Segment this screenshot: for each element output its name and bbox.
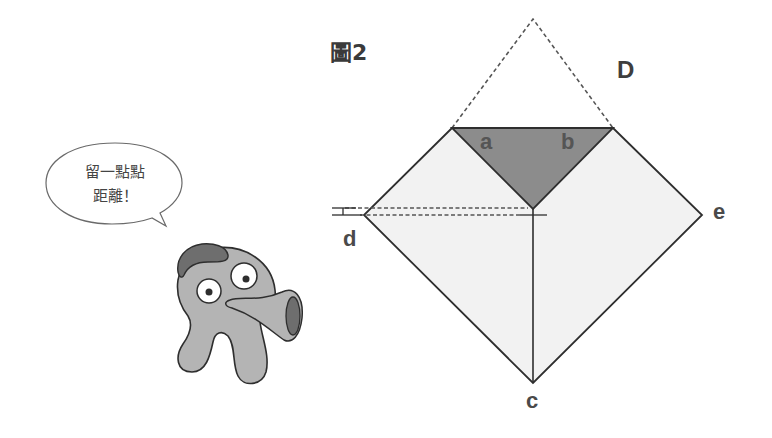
- character-trumpet-opening: [286, 297, 300, 335]
- label-e: e: [713, 201, 725, 223]
- speech-line-1: 留一點點: [60, 160, 170, 184]
- dashed-fold-outline: [452, 19, 613, 128]
- diagram-canvas: 圖2 留一點點 距離！ D a b d e c: [0, 0, 772, 438]
- speech-bubble-text: 留一點點 距離！: [60, 160, 170, 208]
- label-b: b: [561, 131, 574, 153]
- character-pupil-left: [206, 289, 213, 296]
- figure-title: 圖2: [330, 34, 367, 66]
- label-a: a: [480, 131, 492, 153]
- label-D: D: [617, 58, 634, 82]
- label-d: d: [343, 228, 356, 250]
- speech-line-2: 距離！: [60, 184, 170, 208]
- character-pupil-right: [243, 276, 250, 283]
- label-c: c: [526, 390, 538, 412]
- folding-diagram: [0, 0, 772, 438]
- character-eye-right: [231, 263, 257, 289]
- cartoon-character: [177, 244, 302, 384]
